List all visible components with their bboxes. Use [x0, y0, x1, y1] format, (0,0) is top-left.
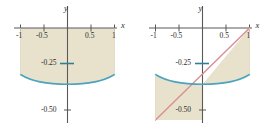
right-plot-canvas	[135, 0, 270, 137]
right-x-axis-label: x	[256, 21, 260, 30]
left-x-axis-label: x	[121, 21, 125, 30]
right-xtick-label-1: 1	[247, 32, 251, 40]
left-ytick-label--0.25: -0.25	[41, 59, 57, 67]
right-plot: x y -1 -0.5 0.5 1 -0.25 -0.50	[135, 0, 270, 137]
two-panel-figure: x y -1 -0.5 0.5 1 -0.25 -0.50	[0, 0, 269, 137]
right-y-axis-label: y	[199, 4, 203, 13]
right-xtick-label--1: -1	[151, 32, 157, 40]
right-xtick-label-0.5: 0.5	[220, 32, 229, 40]
left-xtick-label--1: -1	[16, 32, 22, 40]
left-plot-canvas	[0, 0, 135, 137]
left-xtick-label-0.5: 0.5	[85, 32, 94, 40]
right-ytick-label--0.25: -0.25	[176, 59, 192, 67]
left-plot: x y -1 -0.5 0.5 1 -0.25 -0.50	[0, 0, 135, 137]
left-y-axis-label: y	[64, 4, 68, 13]
right-xtick-label--0.5: -0.5	[171, 32, 183, 40]
left-xtick-label-1: 1	[112, 32, 116, 40]
left-ytick-label--0.50: -0.50	[41, 106, 57, 114]
right-ytick-label--0.50: -0.50	[176, 106, 192, 114]
left-xtick-label--0.5: -0.5	[36, 32, 48, 40]
